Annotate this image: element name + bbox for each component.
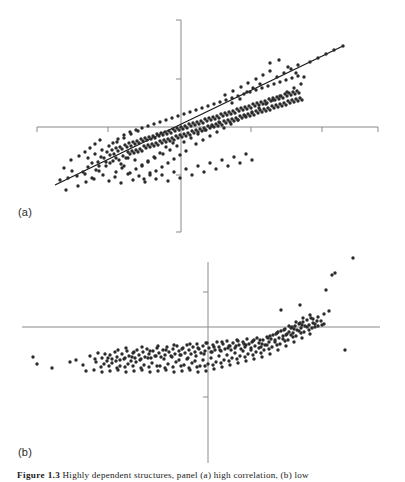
panel-a-label: (a) xyxy=(18,206,32,218)
figure-caption: Figure 1.3 Highly dependent structures, … xyxy=(17,470,392,482)
scatter-panel-a xyxy=(0,0,405,240)
figure-caption-text: Highly dependent structures, panel (a) h… xyxy=(63,470,309,480)
panel-b-label: (b) xyxy=(18,446,32,458)
scatter-panel-b xyxy=(0,240,405,465)
scatter-plot-b xyxy=(0,240,405,465)
scatter-plot-a xyxy=(0,0,405,240)
figure-1-3: (a) (b) Figure 1.3 Highly dependent stru… xyxy=(0,0,405,482)
figure-caption-number: Figure 1.3 xyxy=(17,470,60,480)
